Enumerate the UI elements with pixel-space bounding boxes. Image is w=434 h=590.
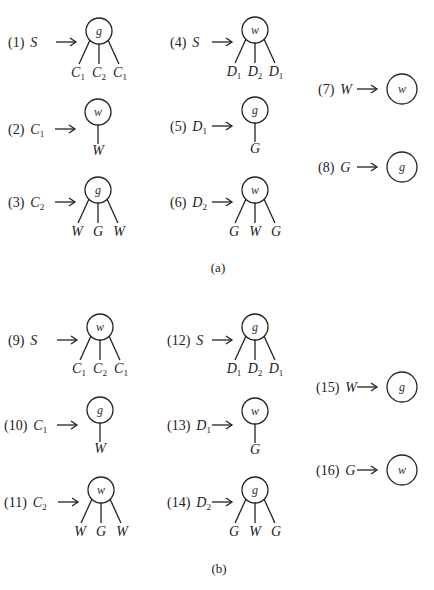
rule-12: (12)SgD1D2D1: [167, 314, 283, 378]
arrow-icon: [357, 163, 377, 171]
child-label: C2: [93, 361, 107, 378]
child-label: W: [249, 224, 262, 239]
arrow-icon: [212, 336, 232, 344]
rule-14: (14)D2gGWG: [167, 477, 281, 539]
arrow-icon: [212, 122, 232, 130]
arrow-icon: [56, 38, 76, 46]
tree-edge: [264, 199, 275, 223]
rule-label: (3)C2: [8, 195, 44, 212]
child-label: C1: [72, 361, 86, 378]
rule-label: (8)G: [318, 160, 350, 176]
child-label: W: [113, 224, 126, 239]
node-label: w: [251, 183, 259, 197]
arrow-icon: [57, 336, 77, 344]
rule-1: (1)SgC1C2C1: [8, 18, 127, 82]
child-label: G: [96, 524, 106, 539]
tree-edge: [235, 336, 246, 360]
tree-edge: [264, 499, 275, 523]
tree-edge: [264, 336, 275, 360]
node-label: g: [399, 380, 405, 394]
node-label: w: [398, 82, 406, 96]
child-label: W: [249, 524, 262, 539]
rule-10: (10)C1gW: [4, 397, 113, 456]
child-label: C1: [71, 65, 85, 82]
child-label: G: [229, 224, 239, 239]
child-label: D2: [247, 64, 263, 81]
child-label: G: [229, 524, 239, 539]
child-label: D1: [226, 64, 242, 81]
child-label: G: [93, 224, 103, 239]
child-label: D1: [268, 64, 284, 81]
panel-caption: (a): [211, 260, 225, 275]
panel-caption: (b): [211, 561, 226, 576]
child-label: D1: [226, 361, 242, 378]
child-label: G: [271, 524, 281, 539]
node-label: w: [251, 23, 259, 37]
rule-label: (1)S: [8, 35, 37, 51]
tree-edge: [235, 199, 246, 223]
tree-edge: [235, 39, 246, 63]
arrow-icon: [357, 85, 377, 93]
panel-a: (1)SgC1C2C1(2)C1wW(3)C2gWGW(4)SwD1D2D1(5…: [8, 17, 417, 275]
arrow-icon: [212, 498, 232, 506]
rule-9: (9)SwC1C2C1: [8, 314, 128, 378]
rule-7: (7)Ww: [318, 74, 417, 104]
child-label: W: [74, 524, 87, 539]
node-label: w: [97, 483, 105, 497]
node-label: g: [252, 103, 258, 117]
rule-label: (14)D2: [167, 495, 211, 512]
tree-edge: [108, 40, 119, 64]
rule-label: (12)S: [167, 333, 203, 349]
rule-8: (8)Gg: [318, 152, 417, 182]
rule-label: (11)C2: [4, 495, 47, 512]
rule-label: (10)C1: [4, 418, 47, 435]
rule-label: (15)W: [316, 380, 358, 396]
child-label: G: [271, 224, 281, 239]
tree-edge: [80, 336, 91, 360]
rule-label: (7)W: [318, 82, 353, 98]
rule-label: (6)D2: [170, 195, 207, 212]
rule-3: (3)C2gWGW: [8, 177, 126, 239]
arrow-icon: [212, 38, 232, 46]
node-label: w: [398, 463, 406, 477]
rule-label: (4)S: [170, 35, 199, 51]
child-label: G: [250, 442, 260, 457]
rule-6: (6)D2wGWG: [170, 177, 281, 239]
node-label: g: [95, 183, 101, 197]
rule-5: (5)D1gG: [170, 97, 268, 156]
node-label: w: [94, 105, 102, 119]
child-label: G: [250, 141, 260, 156]
tree-edge: [107, 199, 118, 223]
node-label: g: [252, 320, 258, 334]
arrow-icon: [57, 421, 77, 429]
tree-edge: [264, 39, 275, 63]
arrow-icon: [212, 198, 232, 206]
node-label: w: [96, 320, 104, 334]
rule-4: (4)SwD1D2D1: [170, 17, 283, 81]
arrow-icon: [58, 498, 78, 506]
rule-16: (16)Gw: [316, 455, 417, 485]
rule-2: (2)C1wW: [8, 99, 111, 158]
rule-15: (15)Wg: [316, 372, 417, 402]
node-label: g: [96, 24, 102, 38]
tree-edge: [79, 40, 90, 64]
arrow-icon: [212, 421, 232, 429]
arrow-icon: [55, 125, 75, 133]
child-label: C2: [92, 65, 106, 82]
node-label: g: [252, 483, 258, 497]
child-label: W: [71, 224, 84, 239]
tree-edge: [235, 499, 246, 523]
rule-label: (9)S: [8, 333, 37, 349]
rule-label: (16)G: [316, 463, 355, 479]
rule-label: (2)C1: [8, 122, 44, 139]
panel-b: (9)SwC1C2C1(10)C1gW(11)C2wWGW(12)SgD1D2D…: [4, 314, 417, 576]
tree-edge: [110, 499, 121, 523]
rule-label: (13)D1: [167, 418, 211, 435]
node-label: g: [97, 403, 103, 417]
child-label: W: [116, 524, 129, 539]
rule-11: (11)C2wWGW: [4, 477, 129, 539]
child-label: D2: [247, 361, 263, 378]
child-label: W: [92, 143, 105, 158]
tree-edge: [78, 199, 89, 223]
rule-13: (13)D1wG: [167, 398, 268, 457]
